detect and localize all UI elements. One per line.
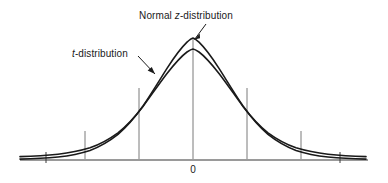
- distribution-comparison-figure: Normal z-distribution t-distribution 0: [0, 0, 388, 183]
- t-callout-arrow: [138, 56, 155, 74]
- normal-callout-arrow: [195, 24, 207, 40]
- axis-zero-tick-label: 0: [190, 164, 196, 175]
- normal-z-distribution-label: Normal z-distribution: [139, 10, 233, 21]
- normal-label-suffix: -distribution: [180, 10, 233, 21]
- t-label-suffix: -distribution: [75, 48, 128, 59]
- t-distribution-label: t-distribution: [72, 48, 128, 59]
- normal-label-prefix: Normal: [139, 10, 175, 21]
- distribution-plot: [0, 0, 388, 183]
